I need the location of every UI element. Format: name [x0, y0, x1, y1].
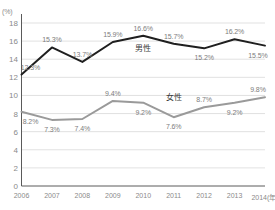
data-label: 8.7% [196, 96, 212, 103]
data-label: 16.6% [134, 24, 153, 31]
series-label-男性: 男性 [135, 41, 151, 52]
data-label: 13.7% [73, 50, 92, 57]
data-label: 7.6% [166, 123, 182, 130]
data-label: 7.3% [44, 125, 60, 132]
data-label: 15.9% [103, 31, 122, 38]
data-label: 12.3% [21, 63, 40, 70]
data-label: 9.4% [105, 89, 121, 96]
data-label: 9.8% [250, 86, 266, 93]
line-chart: (%) 024681012141618 20062007200820092010… [0, 0, 275, 210]
data-label: 9.2% [135, 108, 151, 115]
data-label: 9.2% [227, 108, 243, 115]
data-label: 8.2% [23, 117, 39, 124]
data-label: 16.2% [225, 28, 244, 35]
data-label: 15.7% [164, 32, 183, 39]
series-label-女性: 女性 [166, 90, 182, 101]
data-label: 7.4% [75, 124, 91, 131]
data-label: 15.5% [248, 51, 267, 58]
data-label: 15.2% [194, 54, 213, 61]
data-label: 15.3% [42, 36, 61, 43]
